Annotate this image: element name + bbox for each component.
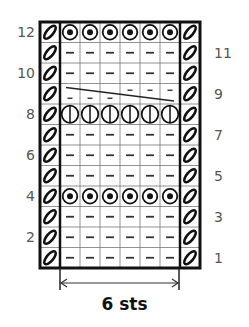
row-number-10: 10 [17, 66, 35, 80]
circle-dot-icon [83, 189, 98, 204]
circle-dot-icon [123, 189, 138, 204]
circle-line-icon [142, 106, 159, 123]
edge-stitch-icon [182, 167, 197, 184]
edge-stitch-icon [42, 229, 57, 246]
row-number-3: 3 [214, 210, 223, 224]
edge-stitch-icon [182, 188, 197, 205]
edge-stitch-icon [42, 106, 57, 123]
edge-stitch-icon [182, 249, 197, 266]
circle-dot-icon [163, 25, 178, 40]
edge-stitch-icon [182, 85, 197, 102]
row-number-2: 2 [26, 230, 35, 244]
circle-dot-icon [143, 189, 158, 204]
circle-dot-icon [63, 25, 78, 40]
edge-stitch-icon [182, 44, 197, 61]
circle-dot-icon [163, 189, 178, 204]
edge-stitch-icon [182, 208, 197, 225]
edge-stitch-icon [42, 24, 57, 41]
circle-line-icon [102, 106, 119, 123]
edge-stitch-icon [42, 44, 57, 61]
circle-dot-icon [123, 25, 138, 40]
circle-line-icon [162, 106, 179, 123]
width-arrow [60, 268, 179, 290]
circle-dot-icon [83, 25, 98, 40]
stitch-count-label: 6 sts [0, 294, 249, 314]
row-number-12: 12 [17, 25, 35, 39]
circle-dot-icon [103, 189, 118, 204]
circle-dot-icon [143, 25, 158, 40]
row-number-5: 5 [214, 169, 223, 183]
row-number-9: 9 [214, 87, 223, 101]
edge-stitch-icon [182, 106, 197, 123]
circle-dot-icon [63, 189, 78, 204]
circle-line-icon [62, 106, 79, 123]
edge-stitch-icon [42, 65, 57, 82]
row-number-8: 8 [26, 107, 35, 121]
edge-stitch-icon [42, 249, 57, 266]
edge-stitch-icon [42, 208, 57, 225]
row-number-11: 11 [214, 46, 232, 60]
knitting-chart [0, 0, 249, 327]
edge-stitch-icon [42, 126, 57, 143]
edge-stitch-icon [42, 188, 57, 205]
row-number-7: 7 [214, 128, 223, 142]
edge-stitch-icon [42, 85, 57, 102]
circle-dot-icon [103, 25, 118, 40]
edge-stitch-icon [182, 65, 197, 82]
row-number-6: 6 [26, 148, 35, 162]
edge-stitch-icon [182, 229, 197, 246]
circle-line-icon [82, 106, 99, 123]
chart-grid [40, 22, 200, 268]
edge-stitch-icon [182, 126, 197, 143]
edge-stitch-icon [42, 147, 57, 164]
row-number-1: 1 [214, 251, 223, 265]
edge-stitch-icon [182, 24, 197, 41]
circle-line-icon [122, 106, 139, 123]
edge-stitch-icon [42, 167, 57, 184]
edge-stitch-icon [182, 147, 197, 164]
row-number-4: 4 [26, 189, 35, 203]
